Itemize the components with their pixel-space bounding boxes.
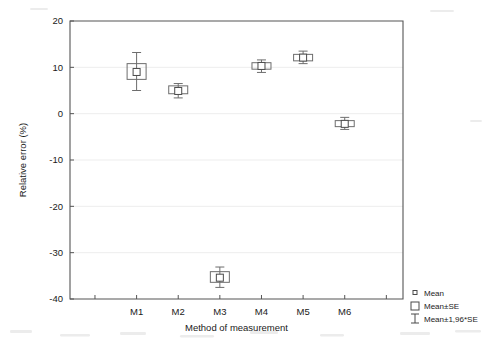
scan-artifact [400,332,430,335]
scan-artifact [470,120,482,122]
scan-artifact [320,334,344,337]
mean-marker [175,87,182,94]
x-axis-tick-labels: M1M2M3M4M5M6 [130,306,351,317]
mean-marker [341,120,348,127]
scan-artifact [10,330,32,333]
legend-item-label: Mean±1,96*SE [424,315,478,324]
box-marker-group [294,51,313,64]
scan-artifact [430,10,454,12]
scan-artifact [180,335,214,338]
y-axis-tick-label: 0 [58,108,63,119]
x-axis-tick-label: M2 [172,306,185,317]
y-axis-tick-label: 10 [52,62,63,73]
box-marker-group [127,53,146,91]
scan-artifact [250,331,278,334]
y-axis-tick-label: 20 [52,15,63,26]
legend-glyph-mean-se-icon [411,302,419,310]
box-marker-group [169,84,188,98]
box-marker-group [210,267,229,287]
y-axis-tick-label: -10 [49,154,63,165]
x-axis-tick-label: M5 [296,306,309,317]
scan-artifact [30,8,48,10]
mean-marker [216,274,223,281]
y-axis-tick-label: -20 [49,201,63,212]
x-axis-tick-label: M3 [213,306,226,317]
y-axis-tick-label: -40 [49,293,63,304]
box-plot-figure: 20100-10-20-30-40 M1M2M3M4M5M6 MeanMean±… [0,0,498,343]
x-axis-tick-label: M4 [255,306,268,317]
box-marker-group [335,117,354,129]
legend-item-label: Mean [424,289,444,298]
y-axis-tick-labels: 20100-10-20-30-40 [49,15,63,304]
x-axis-tick-label: M1 [130,306,143,317]
chart-container: 20100-10-20-30-40 M1M2M3M4M5M6 MeanMean±… [0,0,498,343]
data-markers [127,51,354,287]
box-marker-group [252,60,271,73]
mean-marker [300,54,307,61]
mean-marker [258,62,265,69]
scan-artifact [60,334,90,337]
scan-artifacts [10,8,482,338]
grid-lines [70,67,403,252]
scan-artifact [455,330,481,333]
y-axis-title: Relative error (%) [17,123,28,197]
legend-item-label: Mean±SE [424,302,459,311]
y-axis-tick-label: -30 [49,247,63,258]
mean-marker [133,68,140,75]
legend-glyph-mean-icon [413,291,417,295]
chart-legend: MeanMean±SEMean±1,96*SE [411,289,478,324]
x-axis-tick-label: M6 [338,306,351,317]
scan-artifact [120,332,146,335]
